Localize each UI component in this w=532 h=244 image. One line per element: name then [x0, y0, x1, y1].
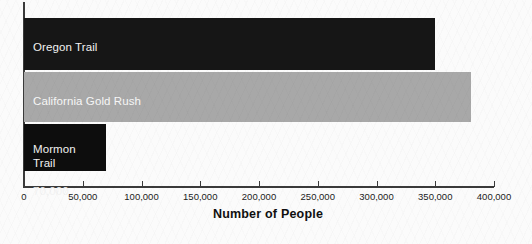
x-axis-tick-mark: [142, 181, 143, 187]
plot-area: Oregon Trail about 350,000 people Califo…: [0, 0, 532, 244]
x-axis-tick-mark: [259, 181, 260, 187]
x-axis-tick-mark: [200, 181, 201, 187]
x-axis-tick-label: 50,000: [68, 191, 97, 202]
x-axis-tick-label: 300,000: [359, 191, 393, 202]
x-axis-tick-label: 250,000: [301, 191, 335, 202]
x-axis-title: Number of People: [0, 207, 532, 221]
x-axis-tick-mark: [83, 181, 84, 187]
bar-label-name: Mormon Trail: [33, 142, 106, 170]
x-axis-title-text: Number of People: [213, 207, 323, 221]
x-axis-tick-label: 0: [21, 191, 26, 202]
bar-oregon-trail: Oregon Trail about 350,000 people: [24, 18, 435, 70]
x-axis-tick-mark: [24, 181, 25, 187]
x-axis-tick-label: 350,000: [418, 191, 452, 202]
x-axis-tick-mark: [435, 181, 436, 187]
x-axis-tick-label: 150,000: [183, 191, 217, 202]
x-axis-tick-label: 200,000: [242, 191, 276, 202]
bar-mormon-trail: Mormon Trail 70,000: [24, 124, 106, 171]
x-axis-tick-label: 400,000: [477, 191, 511, 202]
bar-label-name: California Gold Rush: [33, 94, 471, 109]
x-axis-tick-mark: [318, 181, 319, 187]
bar-chart-screenshot: Oregon Trail about 350,000 people Califo…: [0, 0, 532, 244]
x-axis-tick-mark: [377, 181, 378, 187]
bar-california-gold-rush: California Gold Rush 380,000: [24, 72, 471, 122]
x-axis-tick-label: 100,000: [124, 191, 158, 202]
x-axis-tick-mark: [494, 181, 495, 187]
bar-label-name: Oregon Trail: [33, 40, 435, 55]
